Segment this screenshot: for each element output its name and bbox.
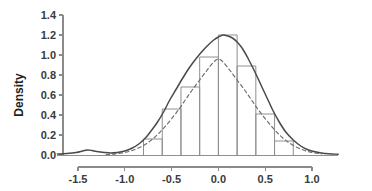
x-tick-label: 1.0 <box>304 173 319 185</box>
x-tick-label: -0.5 <box>162 173 181 185</box>
y-tick-label: 0.4 <box>41 109 57 121</box>
x-axis: -1.5-1.0-0.50.00.51.0 <box>69 167 320 185</box>
density-histogram-chart: 0.00.20.40.60.81.01.21.4 -1.5-1.0-0.50.0… <box>0 0 372 191</box>
y-tick-label: 0.2 <box>41 129 56 141</box>
normal-curve-path <box>106 59 321 155</box>
y-tick-label: 1.2 <box>41 29 56 41</box>
y-axis: 0.00.20.40.60.81.01.21.4 <box>41 9 63 161</box>
x-tick-label: -1.0 <box>115 173 134 185</box>
histogram-bars <box>144 35 294 155</box>
normal-reference-curve <box>106 59 321 155</box>
x-tick-label: -1.5 <box>69 173 88 185</box>
y-tick-label: 1.0 <box>41 49 56 61</box>
x-tick-label: 0.0 <box>211 173 226 185</box>
y-tick-label: 1.4 <box>41 9 57 21</box>
y-tick-label: 0.0 <box>41 149 56 161</box>
x-tick-label: 0.5 <box>258 173 273 185</box>
plot-area: 0.00.20.40.60.81.01.21.4 -1.5-1.0-0.50.0… <box>0 0 372 191</box>
y-tick-label: 0.6 <box>41 89 56 101</box>
density-curve-path <box>57 35 338 154</box>
y-axis-title: Density <box>12 73 26 117</box>
kernel-density-curve <box>57 35 338 154</box>
histogram-outline <box>144 35 294 155</box>
y-tick-label: 0.8 <box>41 69 56 81</box>
